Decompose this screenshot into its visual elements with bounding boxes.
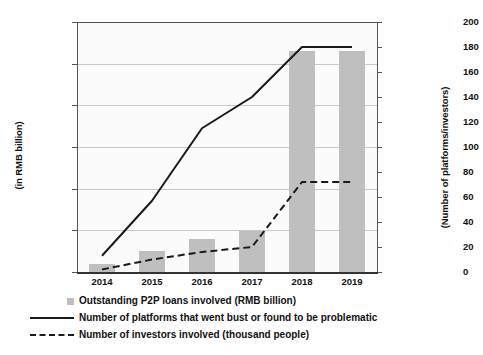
y-axis-right-tick-label: 100: [463, 142, 483, 152]
y-axis-left-spine: [77, 22, 78, 272]
legend-item-label: Outstanding P2P loans involved (RMB bill…: [79, 296, 296, 306]
y-axis-right-tick-label: 180: [463, 42, 483, 52]
legend-swatch-dashed-line-icon: [30, 329, 74, 341]
x-axis-tick-label: 2014: [77, 276, 127, 287]
y-axis-right-tick-label: 60: [463, 192, 483, 202]
x-axis-tick-label: 2015: [127, 276, 177, 287]
x-axis-tick-label: 2019: [327, 276, 377, 287]
legend-swatch-solid-line-icon: [30, 312, 74, 324]
y-axis-right-spine: [377, 22, 378, 272]
x-axis-spine: [77, 272, 378, 274]
legend-swatch-square-icon: [30, 295, 74, 307]
y-axis-right-tick-label: 200: [463, 17, 483, 27]
legend-item[interactable]: Outstanding P2P loans involved (RMB bill…: [30, 292, 430, 309]
solid-line-icon: [30, 317, 74, 319]
y-axis-right-title: (Number of platforms/investors): [439, 58, 450, 258]
line-series: [77, 22, 377, 272]
x-axis-tick-label: 2016: [177, 276, 227, 287]
y-axis-right-tick-label: 80: [463, 167, 483, 177]
square-icon: [67, 298, 74, 305]
y-axis-right-tick-label: 160: [463, 67, 483, 77]
legend-item[interactable]: Number of platforms that went bust or fo…: [30, 309, 430, 326]
y-axis-right-tick-label: 0: [463, 267, 483, 277]
chart-legend: Outstanding P2P loans involved (RMB bill…: [30, 292, 430, 343]
legend-item[interactable]: Number of investors involved (thousand p…: [30, 326, 430, 343]
line-platforms-bust: [102, 47, 352, 256]
y-axis-right-tick-label: 140: [463, 92, 483, 102]
y-axis-right-tick-label: 120: [463, 117, 483, 127]
legend-item-label: Number of platforms that went bust or fo…: [79, 313, 377, 323]
dashed-line-icon: [30, 334, 74, 336]
y-axis-right-tick-label: 40: [463, 217, 483, 227]
line-investors-involved: [102, 182, 352, 270]
x-axis-tick-label: 2018: [277, 276, 327, 287]
plot-area: 01,0002,0003,0004,0005,0006,000 02040608…: [77, 22, 377, 272]
y-axis-left-title: (in RMB billion): [13, 86, 24, 226]
x-axis-tick-label: 2017: [227, 276, 277, 287]
y-axis-right-tick-label: 20: [463, 242, 483, 252]
legend-item-label: Number of investors involved (thousand p…: [79, 330, 309, 340]
